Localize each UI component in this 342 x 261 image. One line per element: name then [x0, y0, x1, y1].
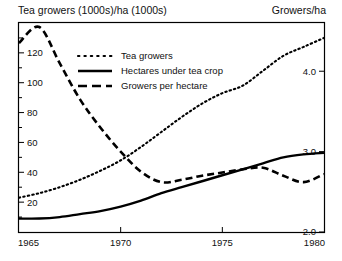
left-tick-label: 120 — [27, 47, 43, 58]
legend-label: Growers per hectare — [121, 80, 208, 91]
x-tick-label: 1975 — [212, 237, 233, 248]
right-tick-label: 2.0 — [303, 226, 316, 237]
right-axis-title: Growers/ha — [272, 4, 326, 16]
x-tick-label: 1980 — [304, 237, 325, 248]
left-tick-label: 100 — [27, 77, 43, 88]
legend-label: Hectares under tea crop — [121, 65, 223, 76]
left-tick-label: 40 — [27, 167, 38, 178]
x-tick-label: 1965 — [18, 237, 39, 248]
figure: Tea growers (1000s)/ha (1000s) Growers/h… — [0, 0, 342, 261]
x-tick-label: 1970 — [110, 237, 131, 248]
left-tick-label: 80 — [27, 107, 38, 118]
line-chart: 20406080100120 2.03.04.0 196519701975198… — [0, 0, 342, 261]
left-axis-title: Tea growers (1000s)/ha (1000s) — [18, 4, 167, 16]
left-tick-label: 60 — [27, 137, 38, 148]
left-tick-label: 20 — [27, 197, 38, 208]
right-tick-label: 4.0 — [303, 66, 316, 77]
legend-label: Tea growers — [121, 50, 173, 61]
